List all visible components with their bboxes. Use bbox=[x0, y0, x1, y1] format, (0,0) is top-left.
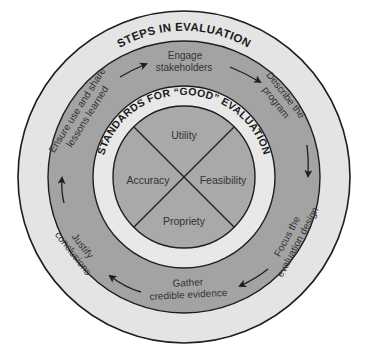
step-gather-line-1: Gather bbox=[172, 276, 204, 289]
standard-utility: Utility bbox=[171, 129, 197, 141]
standard-propriety: Propriety bbox=[163, 215, 206, 227]
evaluation-framework-diagram: STEPS IN EVALUATION STANDARDS FOR “GOOD”… bbox=[0, 0, 366, 353]
step-engage-line-1: Engage bbox=[168, 50, 203, 61]
step-engage-line-2: stakeholders bbox=[156, 62, 213, 73]
standard-accuracy: Accuracy bbox=[126, 174, 170, 186]
standard-feasibility: Feasibility bbox=[200, 174, 247, 186]
